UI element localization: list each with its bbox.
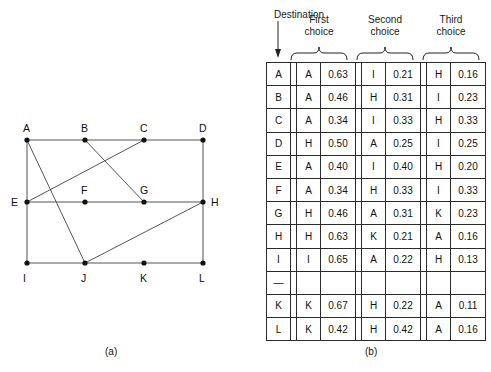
cell-second-prob: 0.21 (386, 225, 421, 248)
graph-node-I[interactable] (24, 260, 29, 265)
cell-third-prob: 0.13 (451, 248, 486, 271)
graph-node-K[interactable] (141, 260, 146, 265)
cell-third-prob (451, 271, 486, 294)
cell-first-node: I (297, 248, 321, 271)
graph-node-F[interactable] (82, 199, 87, 204)
cell-destination: B (267, 86, 291, 109)
cell-first-node: K (297, 318, 321, 341)
graph-node-label-G: G (140, 185, 148, 196)
caption-a: (a) (105, 346, 117, 357)
cell-second-prob: 0.21 (386, 63, 421, 86)
graph-node-label-H: H (211, 197, 219, 208)
cell-third-node (427, 271, 451, 294)
graph-node-H[interactable] (200, 199, 205, 204)
cell-third-node: A (427, 225, 451, 248)
table-row: GH0.46A0.31K0.23 (267, 202, 486, 225)
graph-node-C[interactable] (141, 137, 146, 142)
choice-table: AA0.63I0.21H0.16BA0.46H0.31I0.23CA0.34I0… (266, 62, 486, 341)
cell-first-node (297, 271, 321, 294)
graph-svg (0, 0, 250, 372)
cell-second-node: H (362, 318, 386, 341)
cell-third-prob: 0.20 (451, 155, 486, 178)
cell-first-prob: 0.40 (321, 155, 356, 178)
cell-destination: A (267, 63, 291, 86)
cell-third-node: K (427, 202, 451, 225)
cell-third-prob: 0.25 (451, 132, 486, 155)
cell-second-prob: 0.33 (386, 178, 421, 201)
cell-destination: H (267, 225, 291, 248)
cell-first-node: A (297, 155, 321, 178)
cell-second-node: A (362, 248, 386, 271)
cell-third-node: A (427, 318, 451, 341)
cell-second-node: H (362, 86, 386, 109)
cell-first-prob: 0.34 (321, 178, 356, 201)
cell-third-node: I (427, 178, 451, 201)
table-row: II0.65A0.22H0.13 (267, 248, 486, 271)
graph-node-label-K: K (140, 273, 147, 284)
graph-node-A[interactable] (24, 137, 29, 142)
cell-destination: G (267, 202, 291, 225)
graph-node-J[interactable] (82, 260, 87, 265)
graph-node-label-B: B (81, 123, 88, 134)
table-row: HH0.63K0.21A0.16 (267, 225, 486, 248)
cell-third-prob: 0.23 (451, 86, 486, 109)
table-row: FA0.34H0.33I0.33 (267, 178, 486, 201)
graph-node-label-C: C (140, 123, 148, 134)
cell-second-node (362, 271, 386, 294)
graph-node-E[interactable] (24, 199, 29, 204)
cell-destination: L (267, 318, 291, 341)
cell-third-prob: 0.16 (451, 63, 486, 86)
cell-third-node: H (427, 109, 451, 132)
caption-b: (b) (365, 346, 377, 357)
cell-first-prob: 0.46 (321, 86, 356, 109)
graph-node-label-D: D (199, 123, 207, 134)
cell-first-prob: 0.67 (321, 294, 356, 317)
cell-second-node: A (362, 202, 386, 225)
cell-third-prob: 0.33 (451, 178, 486, 201)
cell-second-node: I (362, 155, 386, 178)
cell-first-node: A (297, 109, 321, 132)
graph-node-L[interactable] (200, 260, 205, 265)
cell-third-node: I (427, 132, 451, 155)
cell-second-node: H (362, 178, 386, 201)
table-row: BA0.46H0.31I0.23 (267, 86, 486, 109)
cell-second-node: I (362, 109, 386, 132)
cell-second-node: A (362, 132, 386, 155)
cell-second-prob: 0.22 (386, 248, 421, 271)
cell-first-node: H (297, 225, 321, 248)
table-row: CA0.34I0.33H0.33 (267, 109, 486, 132)
cell-first-prob: 0.50 (321, 132, 356, 155)
cell-first-node: A (297, 63, 321, 86)
figure-root: ABCDEFGHIJKL (a) Destination First choic… (0, 0, 491, 372)
choice-table-body: AA0.63I0.21H0.16BA0.46H0.31I0.23CA0.34I0… (267, 63, 486, 341)
table-row: DH0.50A0.25I0.25 (267, 132, 486, 155)
graph-node-G[interactable] (141, 199, 146, 204)
graph-node-label-J: J (81, 273, 86, 284)
graph-node-D[interactable] (200, 137, 205, 142)
cell-first-node: H (297, 202, 321, 225)
cell-destination: K (267, 294, 291, 317)
cell-second-prob: 0.31 (386, 86, 421, 109)
graph-node-B[interactable] (82, 137, 87, 142)
cell-third-prob: 0.16 (451, 225, 486, 248)
table-panel: Destination First choice Second choice T… (252, 0, 491, 372)
cell-destination: E (267, 155, 291, 178)
cell-third-node: H (427, 155, 451, 178)
cell-destination: C (267, 109, 291, 132)
cell-second-prob: 0.31 (386, 202, 421, 225)
cell-first-prob: 0.46 (321, 202, 356, 225)
cell-destination: — (267, 271, 291, 294)
cell-third-prob: 0.16 (451, 318, 486, 341)
graph-node-label-F: F (81, 185, 87, 196)
cell-second-prob: 0.42 (386, 318, 421, 341)
graph-node-label-A: A (23, 123, 30, 134)
cell-second-node: I (362, 63, 386, 86)
cell-destination: I (267, 248, 291, 271)
graph-edge-group (27, 140, 203, 263)
graph-node-label-I: I (23, 273, 26, 284)
table-row: KK0.67H0.22A0.11 (267, 294, 486, 317)
graph-node-label-E: E (11, 197, 18, 208)
table-row: — (267, 271, 486, 294)
cell-first-node: H (297, 132, 321, 155)
cell-third-node: I (427, 86, 451, 109)
